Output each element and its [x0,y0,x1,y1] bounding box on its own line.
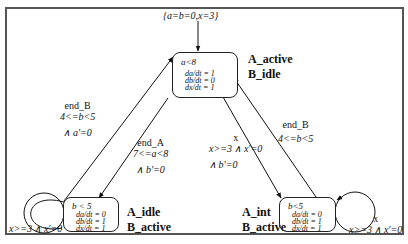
guard: 4<=b<5 [60,111,95,122]
state-bottom-right: b<5 da/dt = 0 db/dt = 1 dx/dt = 1 [279,197,336,232]
self-loop-left-label: x>=3 ∧ x'=0 [9,223,62,234]
event: end_B [60,100,95,111]
guard: 4<=b<5 [278,133,313,144]
state-bottom-left-modes: A_idle B_active [127,205,171,235]
reset: ∧ b'=0 [133,164,168,175]
self-loop-right-label: x x>=3 ∧ x'=0 [349,213,402,235]
mode-a: A_active [248,52,293,67]
reset: ∧ b'=0 [209,159,262,170]
flow-x: dx/dt = 1 [185,84,215,91]
state-flows: da/dt = 1 db/dt = 0 dx/dt = 1 [185,70,215,91]
event: end_A [133,137,168,148]
guard: 7<=a<8 [133,148,168,159]
transition-left-up-label: end_B 4<=b<5 ∧ a'=0 [60,100,95,138]
state-bottom-right-modes: A_int B_active [242,205,286,235]
mode-b: B_active [242,220,286,235]
reset: ∧ a'=0 [60,127,95,138]
state-top: a<8 da/dt = 1 db/dt = 0 dx/dt = 1 [172,52,238,98]
guard: x>=3 ∧ x'=0 [209,143,262,154]
transition-left-down-label: end_A 7<=a<8 ∧ b'=0 [133,137,168,175]
transition-right-up-label: end_B 4<=b<5 [278,119,313,144]
state-flows: da/dt = 0 db/dt = 1 dx/dt = 1 [292,211,322,232]
state-top-modes: A_active B_idle [248,52,293,82]
flow-x: dx/dt = 1 [292,225,322,232]
state-flows: da/dt = 0 db/dt = 1 dx/dt = 1 [76,211,106,232]
event: x [209,132,262,143]
flow-x: dx/dt = 1 [76,225,106,232]
transition-mid-down-label: x x>=3 ∧ x'=0 ∧ b'=0 [209,132,262,170]
mode-a: A_idle [127,205,171,220]
guard: x>=3 ∧ x'=0 [349,224,402,235]
event: x [349,213,402,224]
mode-b: B_idle [248,67,293,82]
mode-b: B_active [127,220,171,235]
mode-a: A_int [242,205,286,220]
state-invariant: a<8 [181,57,196,67]
initial-condition-label: {a=b=0,x=3} [163,10,218,21]
event: end_B [278,119,313,130]
state-bottom-left: b < 5 da/dt = 0 db/dt = 1 dx/dt = 1 [63,197,119,232]
